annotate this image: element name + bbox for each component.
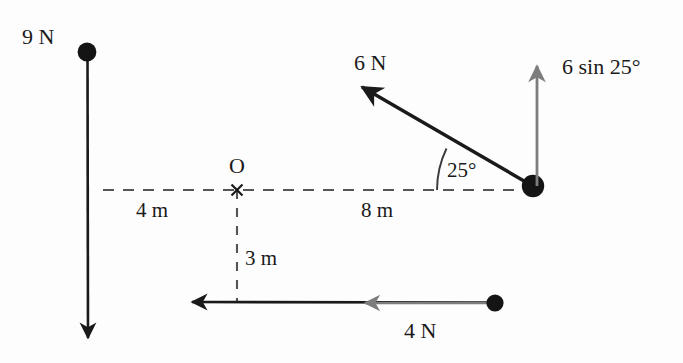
label-origin-o: O xyxy=(229,155,245,177)
force-4n-application-dot xyxy=(486,294,503,311)
label-dimension-3m: 3 m xyxy=(245,248,277,269)
force-vector-9n xyxy=(78,43,97,338)
label-dimension-4m: 4 m xyxy=(136,200,168,221)
angle-arc-25deg xyxy=(437,149,447,191)
label-dimension-8m: 8 m xyxy=(361,200,393,221)
label-component-6sin25: 6 sin 25° xyxy=(562,56,640,78)
label-angle-25deg: 25° xyxy=(447,160,476,181)
force-diagram: 9 N 6 N 6 sin 25° 25° O 4 m 8 m 3 m 4 N xyxy=(0,0,683,363)
force-vector-4n xyxy=(192,294,504,311)
force-6n-application-dot xyxy=(522,175,544,197)
force-9n-shaft xyxy=(88,52,89,338)
label-force-9n: 9 N xyxy=(22,26,54,48)
force-9n-application-dot xyxy=(78,43,97,62)
label-force-6n: 6 N xyxy=(354,52,386,74)
label-force-4n: 4 N xyxy=(404,320,436,342)
